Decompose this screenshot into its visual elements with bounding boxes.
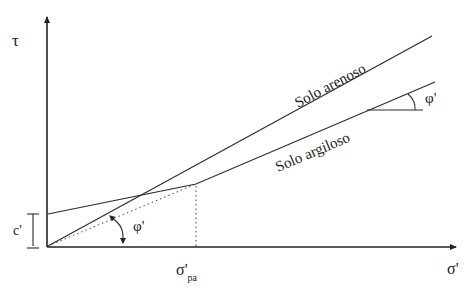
label-solo-arenoso: Solo arenoso — [292, 60, 368, 111]
friction-angle-arc-lower-start — [110, 216, 117, 222]
friction-angle-arc-lower — [117, 222, 123, 243]
preconsolidation-label-sub: pa — [188, 272, 198, 283]
diagram-canvas: τ σ' Solo arenoso Solo argiloso σ'pa c' … — [0, 0, 474, 292]
preconsolidation-label-main: σ' — [176, 261, 188, 278]
envelope-solo-arenoso — [48, 36, 432, 246]
friction-angle-label-upper: φ' — [425, 90, 437, 106]
cohesion-label: c' — [13, 223, 22, 238]
x-axis-label: σ' — [447, 260, 459, 277]
envelope-solo-argiloso — [48, 82, 435, 214]
y-axis-label: τ — [12, 31, 19, 50]
preconsolidation-label: σ'pa — [176, 261, 198, 283]
dotted-secant-line — [48, 184, 196, 246]
label-solo-argiloso: Solo argiloso — [273, 129, 352, 175]
friction-angle-arc-upper — [408, 94, 415, 110]
friction-angle-label-lower: φ' — [133, 218, 145, 234]
